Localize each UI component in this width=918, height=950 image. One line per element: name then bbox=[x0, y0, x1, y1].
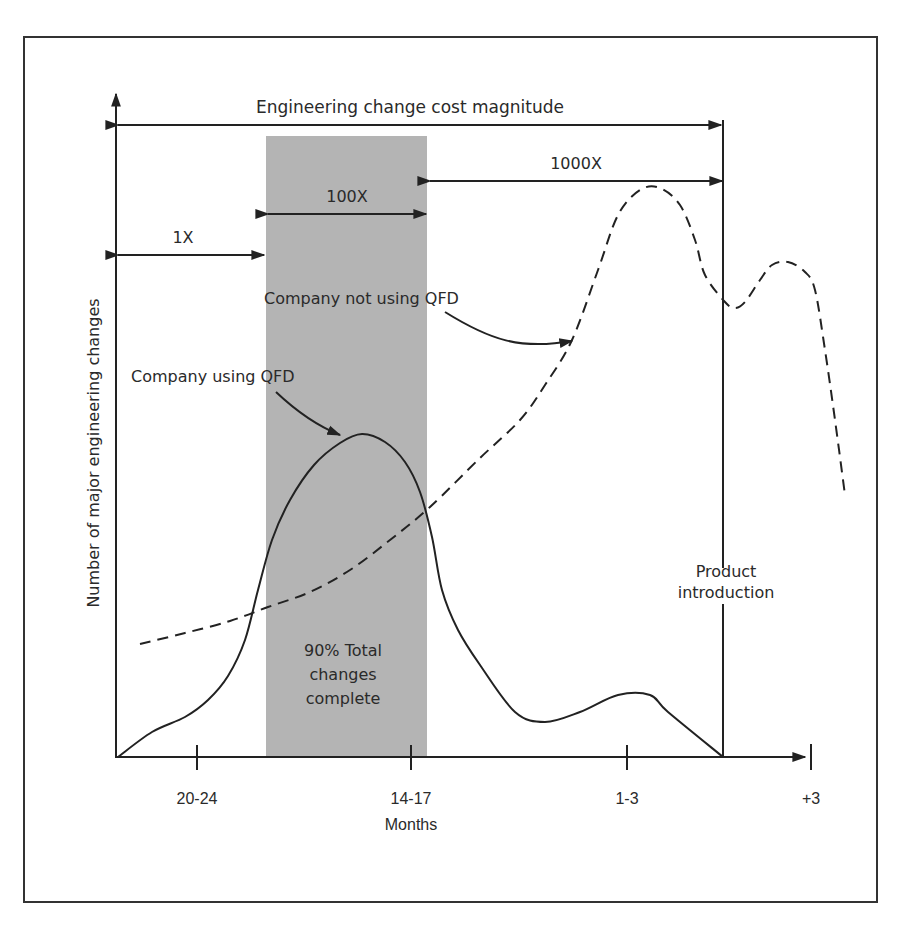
label-company-using-qfd: Company using QFD bbox=[131, 367, 295, 386]
cost-range-label: 1000X bbox=[550, 154, 602, 173]
x-tick-label: 1-3 bbox=[615, 790, 638, 807]
pointer-arrow-not-using-qfd bbox=[445, 312, 572, 344]
product-introduction-line-2: introduction bbox=[678, 583, 775, 602]
x-tick-label: 20-24 bbox=[177, 790, 218, 807]
product-introduction-line-1: Product bbox=[696, 562, 757, 581]
x-axis-label: Months bbox=[385, 816, 437, 833]
band-label-line-1: 90% Total bbox=[304, 641, 382, 660]
cost-range-label: 1X bbox=[172, 228, 193, 247]
label-company-not-using-qfd: Company not using QFD bbox=[264, 289, 459, 308]
y-axis-label: Number of major engineering changes bbox=[84, 298, 103, 607]
band-label-line-2: changes bbox=[309, 665, 376, 684]
shaded-band-90-percent bbox=[266, 136, 427, 757]
x-tick-label: +3 bbox=[802, 790, 820, 807]
qfd-change-chart: 20-2414-171-3+3 Engineering change cost … bbox=[0, 0, 918, 950]
cost-range-label: 100X bbox=[326, 187, 368, 206]
cost-magnitude-label: Engineering change cost magnitude bbox=[256, 97, 564, 117]
x-tick-label: 14-17 bbox=[391, 790, 432, 807]
band-label-line-3: complete bbox=[306, 689, 381, 708]
